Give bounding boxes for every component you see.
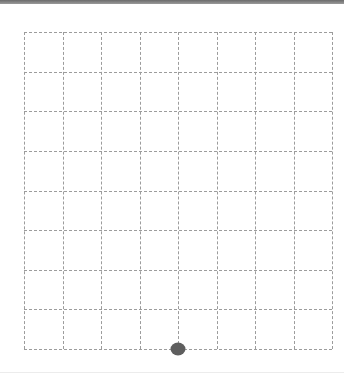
game-board-grid[interactable] [24, 32, 332, 349]
grid-line-horizontal [24, 111, 332, 112]
grid-line-horizontal [24, 72, 332, 73]
grid-line-vertical [332, 32, 333, 349]
grid-line-horizontal [24, 309, 332, 310]
window-top-bar [0, 0, 344, 4]
grid-line-horizontal [24, 230, 332, 231]
game-piece-dot[interactable] [171, 343, 186, 356]
grid-line-horizontal [24, 151, 332, 152]
grid-line-horizontal [24, 32, 332, 33]
grid-line-horizontal [24, 191, 332, 192]
grid-line-horizontal [24, 270, 332, 271]
bottom-divider [0, 372, 344, 373]
